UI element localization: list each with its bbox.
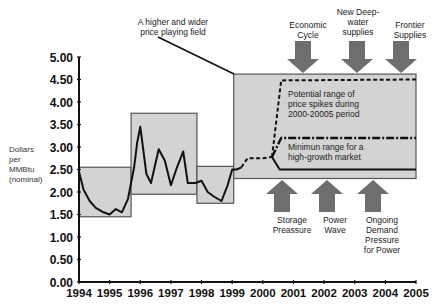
label-line: Frontier: [384, 20, 436, 30]
x-tick-label: 1999: [219, 287, 245, 299]
down-arrow-icon: [287, 41, 319, 73]
x-tick-label: 1998: [189, 287, 215, 299]
callout-line-1: A higher and wider: [118, 17, 228, 27]
x-tick-label: 2002: [311, 287, 337, 299]
up-arrow-icon: [266, 180, 298, 212]
label-line: Ongoing: [352, 215, 412, 225]
x-tick-label: 2001: [281, 287, 307, 299]
deepwater-supplies-label: New Deep- water supplies: [328, 7, 388, 37]
callout-line: [158, 37, 234, 74]
frontier-supplies-label: Frontier Supplies: [384, 20, 436, 40]
y-axis-label-line: Dollars: [9, 145, 49, 155]
y-tick-label: 5.00: [50, 51, 74, 65]
x-tick-label: 2005: [403, 287, 429, 299]
min-range-label: Minimun range for a high-growth market: [288, 142, 398, 162]
y-tick-label: 2.00: [50, 186, 74, 200]
down-arrow-icon: [385, 41, 417, 73]
up-arrow-icon: [357, 180, 389, 212]
label-line: Pressure: [352, 235, 412, 245]
label-line: supplies: [328, 27, 388, 37]
min-range-line: high-growth market: [288, 152, 398, 162]
y-tick-label: 4.50: [50, 73, 74, 87]
y-tick-label: 0.50: [50, 253, 74, 267]
spike-range-line: price spikes during: [288, 99, 398, 109]
y-tick-label: 3.50: [50, 118, 74, 132]
y-tick-label: 2.50: [50, 163, 74, 177]
y-tick-label: 3.00: [50, 141, 74, 155]
label-line: for Power: [352, 245, 412, 255]
y-axis-label-line: (nominal): [9, 175, 49, 185]
label-line: water: [328, 17, 388, 27]
label-line: Economic: [283, 20, 333, 30]
y-tick-label: 1.50: [50, 208, 74, 222]
y-axis-label: Dollars per MMBtu (nominal): [9, 145, 49, 185]
callout-text: A higher and wider price playing field: [118, 17, 228, 37]
x-tick-label: 1997: [158, 287, 184, 299]
label-line: Demand: [352, 225, 412, 235]
spike-range-line: Potential range of: [288, 89, 398, 99]
label-line: New Deep-: [328, 7, 388, 17]
economic-cycle-label: Economic Cycle: [283, 20, 333, 40]
label-line: Supplies: [384, 30, 436, 40]
ongoing-demand-label: Ongoing Demand Pressure for Power: [352, 215, 412, 255]
y-tick-label: 4.00: [50, 96, 74, 110]
x-tick-label: 1996: [127, 287, 153, 299]
x-tick-label: 1994: [66, 287, 92, 299]
x-tick-label: 2000: [250, 287, 276, 299]
y-tick-label: 1.00: [50, 231, 74, 245]
label-line: Cycle: [283, 30, 333, 40]
spike-range-line: 2000-20005 period: [288, 109, 398, 119]
up-arrow-icon: [311, 180, 343, 212]
x-tick-label: 1995: [97, 287, 123, 299]
spike-range-label: Potential range of price spikes during 2…: [288, 89, 398, 119]
down-arrow-icon: [341, 41, 373, 73]
min-range-line: Minimun range for a: [288, 142, 398, 152]
callout-line-2: price playing field: [118, 27, 228, 37]
x-tick-label: 2003: [342, 287, 368, 299]
callout-pointer: [158, 37, 234, 74]
y-axis-label-line: per: [9, 155, 49, 165]
x-tick-label: 2004: [373, 287, 399, 299]
y-axis-label-line: MMBtu: [9, 165, 49, 175]
